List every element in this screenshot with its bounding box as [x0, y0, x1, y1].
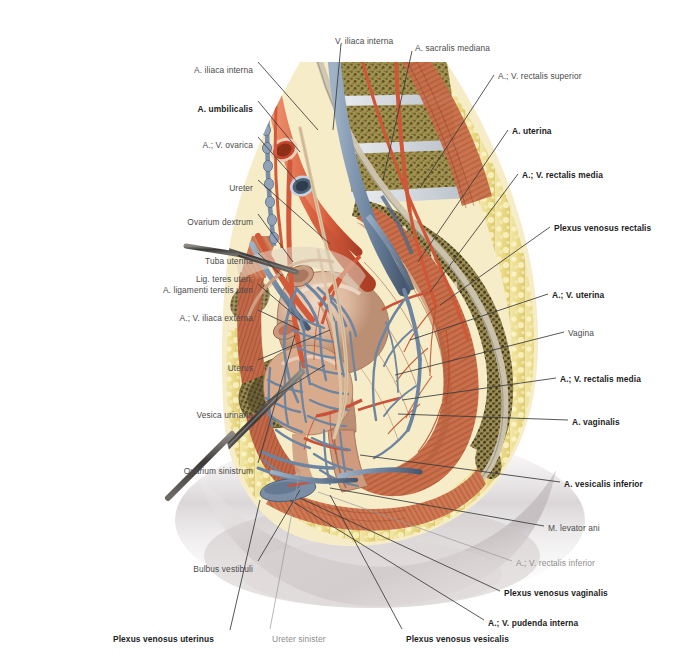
label-vesica-urinaria[interactable]: Vesica urinaria — [197, 410, 253, 421]
label-tuba-uterina[interactable]: Tuba uterina — [205, 256, 253, 267]
label-ureter[interactable]: Ureter — [229, 183, 253, 194]
label-a-v-rectalis-media-1[interactable]: A.; V. rectalis media — [522, 170, 603, 181]
label-a-sacralis-mediana[interactable]: A. sacralis mediana — [415, 43, 490, 54]
label-a-vaginalis[interactable]: A. vaginalis — [572, 417, 620, 428]
label-a-v-rectalis-superior[interactable]: A.; V. rectalis superior — [498, 71, 582, 82]
label-plexus-venosus-vaginalis[interactable]: Plexus venosus vaginalis — [504, 588, 608, 599]
label-bulbus-vestibuli[interactable]: Bulbus vestibuli — [193, 564, 253, 575]
label-a-iliaca-interna[interactable]: A. iliaca interna — [194, 65, 253, 76]
figure-canvas: A. iliaca internaA. umbilicalisA.; V. ov… — [0, 0, 690, 670]
label-lig-teres-uteri[interactable]: Lig. teres uteri; A. ligamenti teretis u… — [163, 274, 253, 296]
label-plexus-venosus-rectalis[interactable]: Plexus venosus rectalis — [554, 223, 651, 234]
label-ovarium-dextrum[interactable]: Ovarium dextrum — [187, 217, 253, 228]
label-uterus[interactable]: Uterus — [228, 363, 253, 374]
label-a-v-rectalis-media-2[interactable]: A.; V. rectalis media — [560, 374, 641, 385]
label-a-v-ovarica[interactable]: A.; V. ovarica — [203, 140, 253, 151]
label-plexus-venosus-uterinus[interactable]: Plexus venosus uterinus — [113, 634, 214, 645]
label-a-v-pudenda-interna[interactable]: A.; V. pudenda interna — [488, 618, 578, 629]
label-a-uterina[interactable]: A. uterina — [512, 126, 552, 137]
label-v-iliaca-interna[interactable]: V. iliaca interna — [335, 36, 393, 47]
label-a-v-iliaca-externa[interactable]: A.; V. iliaca externa — [180, 313, 253, 324]
label-vagina[interactable]: Vagina — [568, 328, 594, 339]
label-ovarium-sinistrum[interactable]: Ovarium sinistrum — [184, 466, 253, 477]
label-m-levator-ani[interactable]: M. levator ani — [548, 523, 600, 534]
label-a-v-uterina[interactable]: A.; V. uterina — [552, 290, 604, 301]
label-a-vesicalis-inferior[interactable]: A. vesicalis inferior — [564, 479, 643, 490]
label-a-v-rectalis-inferior[interactable]: A.; V. rectalis inferior — [516, 558, 595, 569]
label-ureter-sinister[interactable]: Ureter sinister — [272, 634, 326, 645]
label-a-umbilicalis[interactable]: A. umbilicalis — [198, 104, 253, 115]
label-plexus-venosus-vesicalis[interactable]: Plexus venosus vesicalis — [406, 634, 509, 645]
